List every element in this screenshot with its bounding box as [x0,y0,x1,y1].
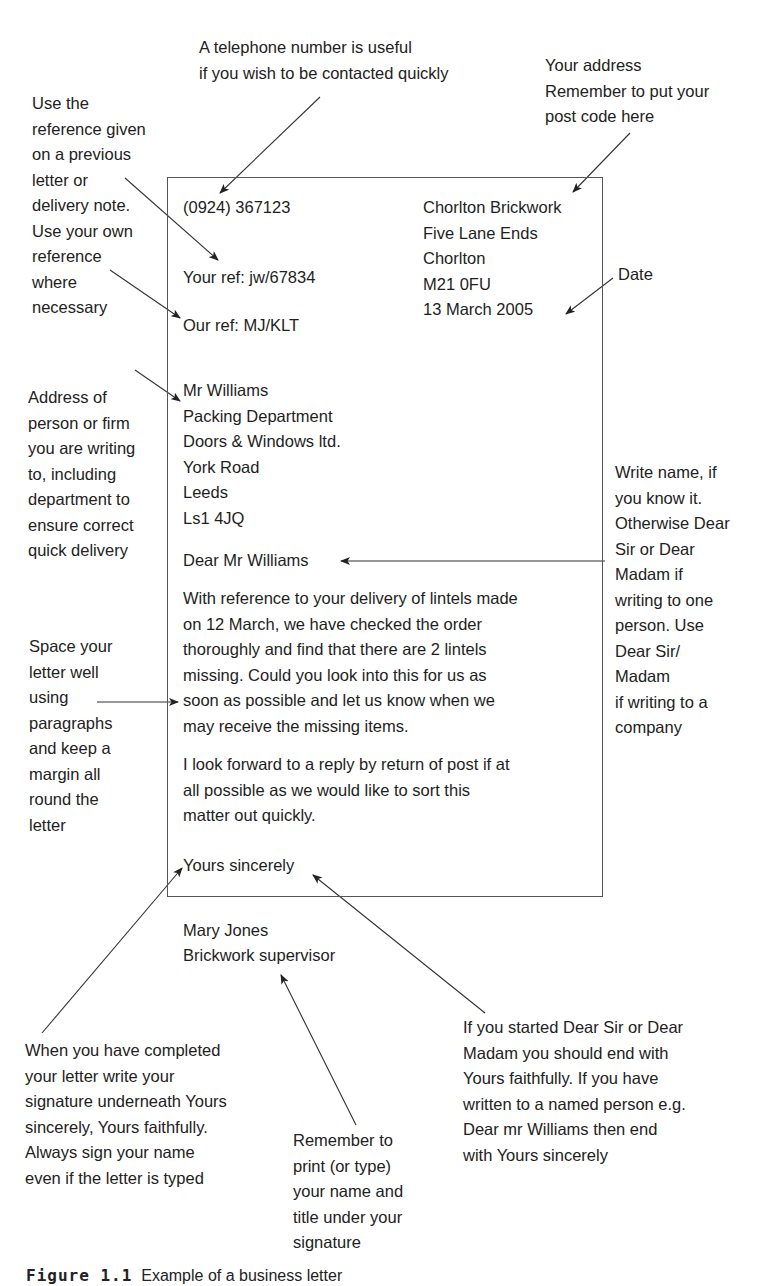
annotation-signature: When you have completed your letter writ… [25,1038,227,1191]
annotation-reference: Use the reference given on a previous le… [32,91,146,321]
annotation-your-address: Your address Remember to put your post c… [545,53,709,130]
letter-signatory-title: Brickwork supervisor [183,943,335,969]
arrow-signature [42,868,182,1033]
annotation-spacing: Space your letter well using paragraphs … [29,634,112,838]
letter-closing: Yours sincerely [183,853,294,879]
annotation-recipient-address: Address of person or firm you are writin… [28,385,135,564]
letter-sender-address: Chorlton Brickwork Five Lane Ends Chorlt… [423,195,561,323]
letter-salutation: Dear Mr Williams [183,548,309,574]
letter-recipient-address: Mr Williams Packing Department Doors & W… [183,378,341,531]
annotation-salutation: Write name, if you know it. Otherwise De… [615,460,730,741]
letter-telephone: (0924) 367123 [183,195,290,221]
letter-your-ref: Your ref: jw/67834 [183,265,315,291]
figure-caption-label: Figure 1.1 [26,1266,132,1285]
annotation-closing: If you started Dear Sir or Dear Madam yo… [463,1015,686,1168]
letter-our-ref: Our ref: MJ/KLT [183,313,299,339]
annotation-print-name: Remember to print (or type) your name an… [293,1128,403,1256]
figure-caption-text: Example of a business letter [141,1267,342,1284]
letter-signatory-name: Mary Jones [183,918,268,944]
letter-paragraph-1: With reference to your delivery of linte… [183,586,518,739]
annotation-telephone: A telephone number is useful if you wish… [199,35,448,86]
letter-paragraph-2: I look forward to a reply by return of p… [183,752,510,829]
figure-caption: Figure 1.1 Example of a business letter [26,1266,342,1286]
arrow-print-name [281,975,356,1125]
annotation-date: Date [618,262,653,288]
